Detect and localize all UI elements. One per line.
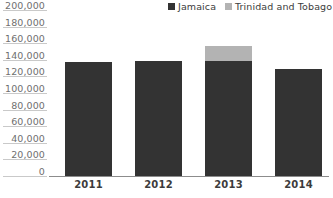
x-axis-label-2011: 2011 [65,180,112,190]
y-axis-tick-label: 120,000 [0,67,45,77]
y-axis-tick-label: 40,000 [0,133,45,143]
y-axis-tick-label: 180,000 [0,17,45,27]
y-axis-tick-label: 60,000 [0,117,45,127]
x-axis-label-2013: 2013 [205,180,252,190]
bar-segment-trinidad-and-tobago-2013[interactable] [205,46,252,61]
y-axis-tick-label: 140,000 [0,50,45,60]
chart-container: Jamaica Trinidad and Tobago 200,000 180,… [0,0,333,198]
y-axis-tick-label: 160,000 [0,34,45,44]
y-axis-tick-label: 200,000 [0,1,45,11]
bar-segment-jamaica-2011[interactable] [65,62,112,176]
bar-segment-jamaica-2013[interactable] [205,61,252,176]
y-axis: 200,000 180,000 160,000 140,000 120,000 … [0,0,48,182]
x-axis-label-2014: 2014 [275,180,322,190]
y-axis-tick-label: 0 [0,167,45,177]
plot-area [49,10,333,176]
x-axis: 2011 2012 2013 2014 [49,180,333,198]
bar-segment-jamaica-2014[interactable] [275,69,322,176]
y-axis-tick-label: 100,000 [0,84,45,94]
bar-group-2012[interactable] [135,61,182,176]
x-axis-label-2012: 2012 [135,180,182,190]
y-axis-tick-label: 80,000 [0,100,45,110]
bar-segment-jamaica-2012[interactable] [135,61,182,176]
bar-group-2013[interactable] [205,46,252,176]
bar-group-2014[interactable] [275,69,322,176]
bar-group-2011[interactable] [65,62,112,176]
y-axis-tick-label: 20,000 [0,150,45,160]
